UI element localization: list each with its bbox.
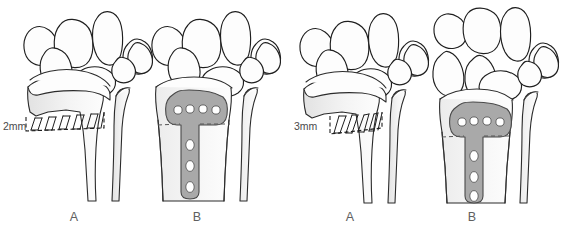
panel-letter-right-b: B [468, 210, 476, 224]
left-panel-a-illustration [24, 12, 153, 201]
right-panel-a-illustration [300, 14, 429, 203]
measurement-label-2mm: 2mm [3, 120, 27, 132]
panel-letter-right-a: A [346, 210, 355, 224]
left-panel-b-illustration [152, 12, 281, 201]
measurement-label-3mm: 3mm [294, 120, 318, 132]
carpal-bones-right-b [433, 8, 559, 101]
right-panel-b-illustration [433, 8, 559, 203]
anatomy-illustration-canvas: 2mm 3mm A B A B [0, 0, 588, 239]
figure-root: 2mm 3mm A B A B [0, 0, 588, 239]
panel-letter-left-a: A [70, 210, 79, 224]
panel-letter-left-b: B [193, 210, 201, 224]
